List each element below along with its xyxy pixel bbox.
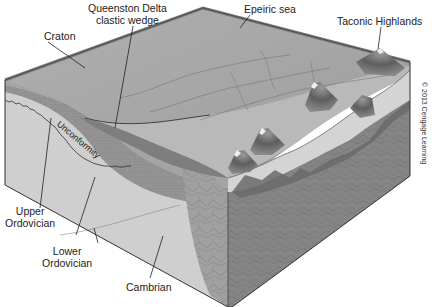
label-lower-ordovician-line2: Ordovician	[42, 257, 92, 269]
block-diagram: Queenston Delta clastic wedge Craton Epe…	[0, 0, 437, 307]
label-epeiric-sea: Epeiric sea	[244, 3, 296, 15]
label-craton: Craton	[44, 30, 76, 42]
label-upper-ordovician-line2: Ordovician	[5, 217, 55, 229]
label-cambrian: Cambrian	[126, 281, 172, 293]
label-lower-ordovician-line1: Lower	[42, 245, 92, 257]
leader-taconic	[378, 27, 381, 49]
label-lower-ordovician: Lower Ordovician	[42, 245, 92, 269]
label-queenston-line1: Queenston Delta	[88, 2, 167, 14]
label-queenston-line2: clastic wedge	[88, 14, 167, 26]
label-taconic-highlands: Taconic Highlands	[337, 15, 422, 27]
label-upper-ordovician: Upper Ordovician	[5, 205, 55, 229]
copyright-credit: © 2013 Cengage Learning	[421, 82, 428, 164]
label-upper-ordovician-line1: Upper	[5, 205, 55, 217]
label-queenston-delta: Queenston Delta clastic wedge	[88, 2, 167, 26]
